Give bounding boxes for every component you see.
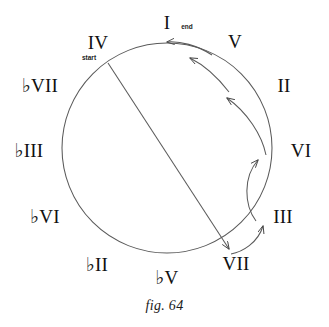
node-label-v: V	[228, 32, 242, 51]
node-label-flat-vi: ♭VI	[30, 207, 60, 226]
figure-page: I end V II VI III VII ♭V ♭II ♭VI ♭III ♭V…	[0, 0, 329, 327]
node-label-vii: VII	[223, 254, 250, 273]
role-tag-end: end	[181, 23, 193, 30]
node-label-flat-v: ♭V	[155, 268, 178, 287]
arrow-iv-to-vii	[108, 63, 229, 249]
node-label-ii: II	[277, 76, 290, 95]
node-label-flat-ii: ♭II	[86, 255, 108, 274]
main-circle	[62, 43, 272, 253]
arrow-vii-to-iii	[231, 226, 263, 254]
figure-caption: fig. 64	[0, 298, 329, 314]
node-label-vi: VI	[291, 141, 311, 160]
arrow-iii-to-vi	[247, 160, 258, 221]
arrow-ii-to-v	[190, 58, 229, 92]
role-tag-start: start	[82, 54, 96, 61]
node-label-flat-iii: ♭III	[15, 141, 44, 160]
node-label-iii: III	[273, 207, 293, 226]
arrow-vi-to-ii	[227, 98, 266, 155]
node-label-iv: IV	[88, 33, 108, 52]
node-label-i: I	[164, 13, 171, 32]
node-label-flat-vii: ♭VII	[22, 76, 58, 95]
arrow-v-to-i	[167, 42, 212, 55]
